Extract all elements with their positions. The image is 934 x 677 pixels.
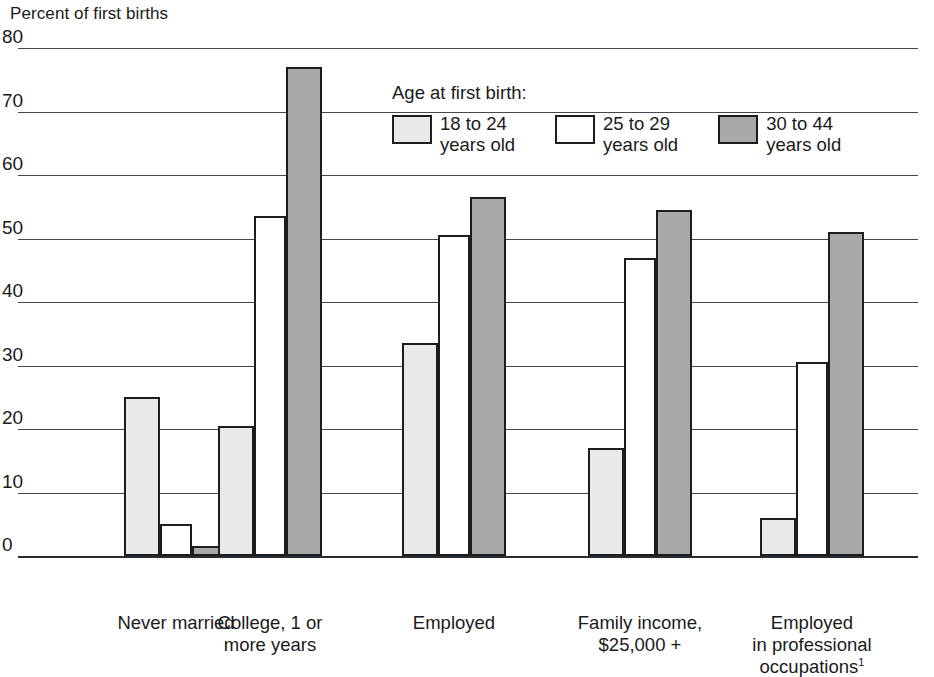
legend-swatch-icon-1 (555, 115, 595, 144)
y-axis-tick-label: 0 (2, 535, 13, 554)
bar-group-0-series-0 (124, 397, 160, 556)
legend-label-line1: 18 to 24 (440, 113, 515, 134)
x-axis-label-line: occupations1 (697, 656, 927, 677)
bar-group-0-series-1 (160, 524, 192, 556)
y-axis-tick-label: 20 (2, 408, 23, 427)
y-axis-tick-label: 40 (2, 281, 23, 300)
legend-label-line2: years old (440, 134, 515, 155)
legend-label-2: 30 to 44years old (766, 113, 841, 156)
x-axis-label-line: more years (155, 634, 385, 656)
axis-baseline (18, 556, 918, 558)
x-axis-label-line: Employed (697, 612, 927, 634)
bar-group-3-series-0 (588, 448, 624, 556)
gridline-80 (18, 48, 918, 49)
bar-group-4-series-0 (760, 518, 796, 556)
bar-group-2-series-2 (470, 197, 506, 556)
y-axis-tick-label: 10 (2, 472, 23, 491)
x-axis-category-label: Employedin professionaloccupations1 (697, 612, 927, 677)
footnote-marker: 1 (858, 656, 864, 668)
legend-item-1[interactable]: 25 to 29years old (555, 113, 678, 156)
chart-legend: Age at first birth: 18 to 24years old25 … (392, 82, 862, 156)
bar-group-3-series-2 (656, 210, 692, 556)
chart-axis-title: Percent of first births (10, 4, 168, 24)
bar-group-1-series-0 (218, 426, 254, 556)
bar-group-2-series-1 (438, 235, 470, 556)
gridline-60 (18, 175, 918, 176)
legend-label-line1: 25 to 29 (603, 113, 678, 134)
legend-item-0[interactable]: 18 to 24years old (392, 113, 515, 156)
y-axis-tick-label: 80 (2, 27, 23, 46)
bar-group-4-series-1 (796, 362, 828, 556)
bar-group-2-series-0 (402, 343, 438, 556)
x-axis-label-line: in professional (697, 634, 927, 656)
y-axis-tick-label: 50 (2, 218, 23, 237)
legend-label-0: 18 to 24years old (440, 113, 515, 156)
legend-label-line1: 30 to 44 (766, 113, 841, 134)
legend-label-line2: years old (603, 134, 678, 155)
legend-label-line2: years old (766, 134, 841, 155)
bar-group-1-series-2 (286, 67, 322, 556)
legend-items: 18 to 24years old25 to 29years old30 to … (392, 113, 862, 156)
legend-swatch-icon-2 (718, 115, 758, 144)
legend-item-2[interactable]: 30 to 44years old (718, 113, 841, 156)
bar-group-4-series-2 (828, 232, 864, 556)
legend-title: Age at first birth: (392, 82, 862, 104)
bar-group-1-series-1 (254, 216, 286, 556)
legend-label-1: 25 to 29years old (603, 113, 678, 156)
y-axis-tick-label: 30 (2, 345, 23, 364)
bar-group-3-series-1 (624, 258, 656, 556)
y-axis-tick-label: 70 (2, 91, 23, 110)
legend-swatch-icon-0 (392, 115, 432, 144)
y-axis-tick-label: 60 (2, 154, 23, 173)
